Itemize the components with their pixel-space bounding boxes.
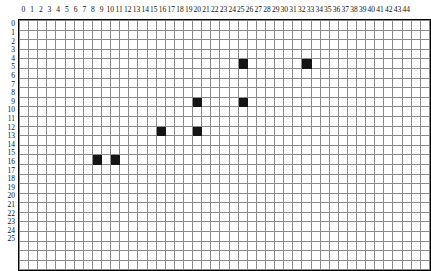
- grid-cell[interactable]: [302, 155, 311, 165]
- grid-cell[interactable]: [366, 155, 375, 165]
- grid-cell[interactable]: [92, 222, 101, 232]
- grid-cell[interactable]: [302, 203, 311, 213]
- grid-cell[interactable]: [83, 184, 92, 194]
- grid-cell[interactable]: [138, 136, 147, 146]
- grid-cell[interactable]: [156, 164, 165, 174]
- grid-cell[interactable]: [29, 260, 38, 270]
- grid-cell[interactable]: [92, 49, 101, 59]
- grid-cell[interactable]: [238, 145, 247, 155]
- grid-cell[interactable]: [256, 21, 265, 31]
- grid-cell[interactable]: [38, 260, 47, 270]
- grid-cell[interactable]: [138, 21, 147, 31]
- grid-cell[interactable]: [293, 222, 302, 232]
- grid-cell[interactable]: [284, 145, 293, 155]
- grid-cell[interactable]: [256, 78, 265, 88]
- grid-cell[interactable]: [92, 97, 101, 107]
- grid-cell[interactable]: [211, 251, 220, 261]
- grid-cell[interactable]: [366, 107, 375, 117]
- grid-cell[interactable]: [284, 21, 293, 31]
- grid-cell[interactable]: [265, 59, 274, 69]
- grid-cell[interactable]: [29, 21, 38, 31]
- grid-cell[interactable]: [357, 97, 366, 107]
- grid-cell[interactable]: [220, 184, 229, 194]
- grid-cell[interactable]: [74, 78, 83, 88]
- grid-cell[interactable]: [92, 251, 101, 261]
- grid-cell[interactable]: [238, 107, 247, 117]
- grid-cell[interactable]: [65, 68, 74, 78]
- grid-cell[interactable]: [338, 116, 347, 126]
- grid-cell[interactable]: [202, 40, 211, 50]
- grid-cell[interactable]: [220, 59, 229, 69]
- grid-cell[interactable]: [265, 68, 274, 78]
- grid-cell[interactable]: [384, 126, 393, 136]
- grid-cell[interactable]: [393, 88, 402, 98]
- grid-cell[interactable]: [56, 203, 65, 213]
- grid-cell[interactable]: [275, 107, 284, 117]
- grid-cell[interactable]: [275, 68, 284, 78]
- grid-cell[interactable]: [74, 260, 83, 270]
- grid-cell[interactable]: [183, 155, 192, 165]
- grid-cell[interactable]: [220, 193, 229, 203]
- grid-cell[interactable]: [147, 97, 156, 107]
- grid-cell[interactable]: [275, 49, 284, 59]
- grid-cell[interactable]: [211, 136, 220, 146]
- grid-cell[interactable]: [402, 193, 411, 203]
- grid-cell[interactable]: [38, 126, 47, 136]
- grid-cell[interactable]: [47, 174, 56, 184]
- grid-cell[interactable]: [265, 49, 274, 59]
- grid-cell[interactable]: [320, 97, 329, 107]
- grid-cell[interactable]: [92, 68, 101, 78]
- grid-cell[interactable]: [357, 164, 366, 174]
- grid-cell[interactable]: [411, 164, 420, 174]
- grid-cell[interactable]: [220, 88, 229, 98]
- grid-cell[interactable]: [357, 155, 366, 165]
- grid-cell[interactable]: [29, 241, 38, 251]
- grid-cell[interactable]: [229, 88, 238, 98]
- grid-cell[interactable]: [265, 184, 274, 194]
- grid-cell[interactable]: [111, 251, 120, 261]
- grid-cell[interactable]: [147, 116, 156, 126]
- grid-cell[interactable]: [20, 40, 29, 50]
- grid-cell[interactable]: [284, 97, 293, 107]
- grid-cell[interactable]: [293, 136, 302, 146]
- grid-cell[interactable]: [193, 68, 202, 78]
- grid-cell[interactable]: [120, 40, 129, 50]
- grid-cell[interactable]: [83, 88, 92, 98]
- grid-cell[interactable]: [402, 97, 411, 107]
- grid-cell[interactable]: [174, 174, 183, 184]
- grid-cell[interactable]: [320, 30, 329, 40]
- grid-cell[interactable]: [265, 136, 274, 146]
- grid-cell[interactable]: [83, 68, 92, 78]
- grid-cell[interactable]: [420, 241, 429, 251]
- grid-cell[interactable]: [220, 97, 229, 107]
- grid-cell[interactable]: [193, 145, 202, 155]
- grid-cell[interactable]: [384, 145, 393, 155]
- grid-cell[interactable]: [202, 232, 211, 242]
- grid-cell[interactable]: [120, 232, 129, 242]
- grid-cell[interactable]: [165, 203, 174, 213]
- grid-cell[interactable]: [256, 88, 265, 98]
- grid-cell[interactable]: [265, 164, 274, 174]
- grid-cell[interactable]: [256, 260, 265, 270]
- grid-cell[interactable]: [366, 40, 375, 50]
- grid-cell[interactable]: [229, 126, 238, 136]
- grid-cell[interactable]: [92, 88, 101, 98]
- grid-cell[interactable]: [47, 49, 56, 59]
- grid-cell[interactable]: [320, 193, 329, 203]
- grid-cell[interactable]: [256, 193, 265, 203]
- grid-cell[interactable]: [65, 193, 74, 203]
- grid-cell[interactable]: [393, 126, 402, 136]
- grid-cell[interactable]: [183, 40, 192, 50]
- grid-cell[interactable]: [165, 232, 174, 242]
- grid-cell[interactable]: [156, 251, 165, 261]
- grid-cell[interactable]: [384, 260, 393, 270]
- grid-cell[interactable]: [65, 222, 74, 232]
- grid-cell[interactable]: [357, 136, 366, 146]
- grid-cell[interactable]: [347, 49, 356, 59]
- grid-cell[interactable]: [20, 222, 29, 232]
- grid-cell[interactable]: [265, 107, 274, 117]
- grid-cell[interactable]: [357, 184, 366, 194]
- grid-cell[interactable]: [83, 222, 92, 232]
- grid-cell[interactable]: [174, 97, 183, 107]
- grid-cell[interactable]: [202, 184, 211, 194]
